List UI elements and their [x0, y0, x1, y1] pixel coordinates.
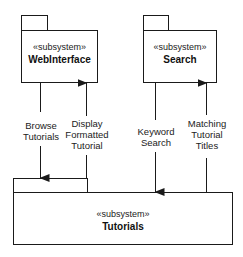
webinterface-name: WebInterface — [21, 54, 98, 65]
label-line: Tutorials — [18, 131, 64, 142]
label-line: Tutorial — [60, 140, 114, 151]
tutorials-name: Tutorials — [13, 221, 233, 232]
search-stereotype: «subsystem» — [143, 42, 217, 52]
label-line: Tutorial — [182, 129, 232, 140]
browse-tutorials-label: Browse Tutorials — [18, 120, 64, 142]
tutorials-stereotype: «subsystem» — [13, 209, 233, 219]
label-line: Matching — [182, 118, 232, 129]
tutorials-tab — [14, 179, 88, 193]
label-line: Search — [132, 137, 180, 148]
search-tab — [144, 16, 169, 31]
display-formatted-tutorial-label: Display Formatted Tutorial — [60, 118, 114, 151]
label-line: Browse — [18, 120, 64, 131]
keyword-search-label: Keyword Search — [132, 126, 180, 148]
label-line: Display — [60, 118, 114, 129]
search-name: Search — [143, 54, 217, 65]
webinterface-stereotype: «subsystem» — [21, 42, 98, 52]
label-line: Titles — [182, 140, 232, 151]
matching-tutorial-titles-label: Matching Tutorial Titles — [182, 118, 232, 151]
label-line: Formatted — [60, 129, 114, 140]
label-line: Keyword — [132, 126, 180, 137]
webinterface-tab — [22, 16, 48, 31]
